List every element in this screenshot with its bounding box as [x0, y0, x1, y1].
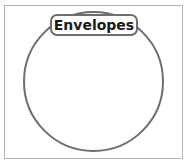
- set-label: Envelopes: [50, 14, 138, 36]
